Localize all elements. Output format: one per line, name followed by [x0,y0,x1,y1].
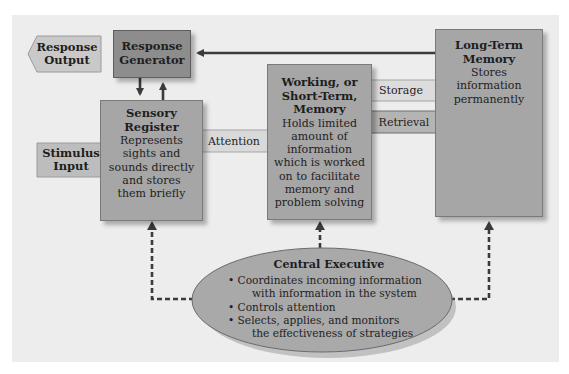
sensory-register-body-line: sights and [101,147,202,160]
working-memory-body-line: amount of [268,130,371,143]
stimulus-input-label: Stimulus Input [37,143,105,177]
long-term-memory-title-line: Memory [436,53,542,67]
executive-to-working-memory-dashed-arrow [315,221,325,248]
response-generator-line1: Response [114,40,190,54]
stimulus-input-line2: Input [53,160,88,174]
working-memory-title-line: Memory [268,103,371,117]
retrieval-label: Retrieval [366,111,442,133]
bullet-line: • Coordinates incoming information [228,274,422,286]
stimulus-input-line1: Stimulus [42,147,100,161]
working-memory-body-line: problem solving [268,196,371,209]
sensory-register-body-line: Represents [101,134,202,147]
long-term-memory-title-line: Long-Term [436,39,542,53]
working-memory-body-line: information [268,143,371,156]
response-output-line2: Output [44,54,89,68]
long-term-memory-box: Long-Term Memory Stores information perm… [435,29,543,217]
executive-to-ltm-dashed-arrow [450,221,494,299]
storage-label: Storage [362,80,440,101]
attention-label: Attention [195,130,273,152]
long-term-memory-body-line: Stores [436,66,542,79]
response-generator-box: Response Generator [113,30,191,78]
bullet-line: • Controls attention [228,301,336,313]
working-memory-body-line: which is worked [268,156,371,169]
central-executive-bullet: • Controls attention [228,301,438,314]
working-memory-title-line: Working, or [268,76,371,90]
sensory-register-body-line: and stores [101,174,202,187]
working-memory-box: Working, or Short-Term, Memory Holds lim… [267,64,372,220]
central-executive-title: Central Executive [228,258,438,271]
executive-to-sensory-dashed-arrow [147,221,194,299]
working-memory-body-line: Holds limited [268,117,371,130]
bullet-line: with information in the system [240,287,417,299]
sensory-register-title-line1: Sensory [101,107,202,121]
sensory-register-body-line: them briefly [101,187,202,200]
bullet-line: • Selects, applies, and monitors [228,314,399,326]
long-term-memory-body-line: information [436,79,542,92]
response-output-label: Response Output [32,36,102,72]
sensory-register-box: Sensory Register Represents sights and s… [100,100,203,221]
sensory-register-body-line: sounds directly [101,161,202,174]
long-term-memory-body-line: permanently [436,93,542,106]
working-memory-body-line: memory and [268,183,371,196]
central-executive-text: Central Executive • Coordinates incoming… [228,258,438,340]
working-memory-title-line: Short-Term, [268,90,371,104]
central-executive-bullet: • Selects, applies, and monitors the eff… [228,314,438,340]
response-output-line1: Response [36,41,97,55]
working-memory-body-line: on to facilitate [268,170,371,183]
central-executive-bullet: • Coordinates incoming information with … [228,274,438,300]
response-generator-line2: Generator [114,54,190,68]
sensory-register-title-line2: Register [101,121,202,135]
bullet-line: the effectiveness of strategies [240,327,413,339]
